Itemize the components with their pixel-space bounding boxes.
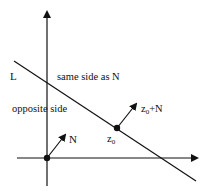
label-same-side: same side as N <box>57 71 120 82</box>
half-plane-diagram: L same side as N opposite side N z0 z0+N <box>0 0 209 196</box>
label-z0-plus-n: z0+N <box>141 103 163 116</box>
label-l: L <box>10 70 17 82</box>
label-n: N <box>69 133 77 145</box>
normal-vector-n <box>47 135 65 158</box>
label-z0: z0 <box>107 133 116 146</box>
label-opposite-side: opposite side <box>12 103 67 114</box>
vector-z0-plus-n <box>117 104 136 128</box>
